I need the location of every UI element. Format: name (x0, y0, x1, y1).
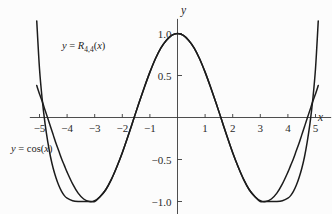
x-tick-label: −5 (34, 122, 46, 134)
x-tick-label: 3 (258, 122, 264, 134)
y-tick-label: 0.5 (158, 70, 172, 82)
y-axis-label: y (180, 4, 187, 17)
x-axis-label: x (317, 111, 324, 123)
y-tick-label: −0.5 (152, 154, 172, 166)
x-tick-label: 4 (285, 122, 291, 134)
x-tick-label: −3 (89, 122, 101, 134)
x-tick-label: 2 (230, 122, 236, 134)
x-tick-label: −1 (144, 122, 156, 134)
function-plot: −5−4−3−2−112345−1.0−0.50.51.0 x y y = R4… (0, 0, 332, 214)
x-tick-label: −2 (116, 122, 128, 134)
x-tick-label: 1 (202, 122, 208, 134)
x-tick-label: 5 (313, 122, 319, 134)
x-tick-label: −4 (61, 122, 73, 134)
y-tick-label: 1.0 (158, 28, 172, 40)
y-tick-label: −1.0 (152, 196, 172, 208)
cosine-label: y = cos(x) (10, 143, 53, 155)
